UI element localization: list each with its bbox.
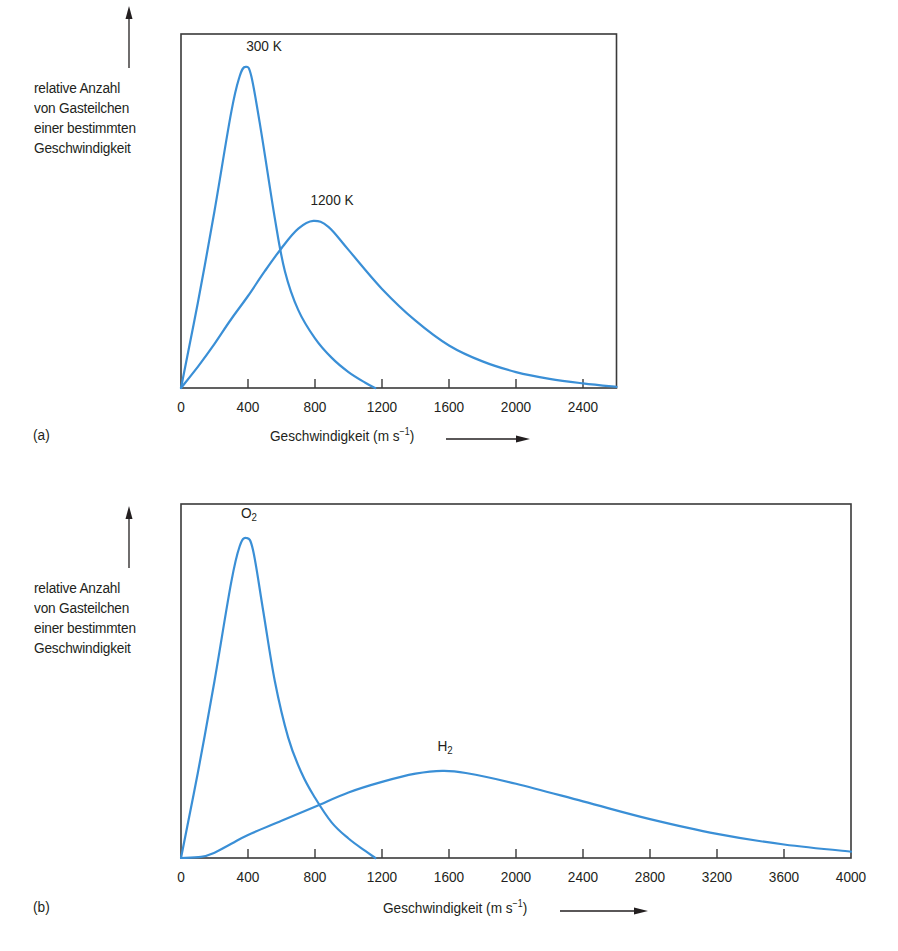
y-axis-arrow-icon xyxy=(126,506,133,519)
x-tick-label: 2000 xyxy=(501,868,531,886)
series-curve-h2 xyxy=(181,771,851,858)
x-tick-label: 1600 xyxy=(434,868,464,886)
y-label-line: von Gasteilchen xyxy=(34,598,136,618)
x-tick-label: 4000 xyxy=(836,868,866,886)
series-label: O2 xyxy=(241,504,257,523)
series-curve-o2 xyxy=(181,538,375,858)
x-tick-label: 800 xyxy=(304,868,327,886)
x-tick-label: 400 xyxy=(237,868,260,886)
series-label: H2 xyxy=(438,737,453,756)
x-tick-label: 3200 xyxy=(702,868,732,886)
x-tick-label: 0 xyxy=(177,868,185,886)
x-axis-arrow-icon xyxy=(634,908,648,915)
x-tick-label: 3600 xyxy=(769,868,799,886)
plot-frame xyxy=(181,504,851,858)
y-label-line: Geschwindigkeit xyxy=(34,638,136,658)
x-tick-label: 1200 xyxy=(367,868,397,886)
x-tick-label: 2400 xyxy=(568,868,598,886)
panel-label-b: (b) xyxy=(33,898,50,916)
x-tick-label: 2800 xyxy=(635,868,665,886)
y-axis-label-b: relative Anzahl von Gasteilchen einer be… xyxy=(34,578,136,658)
y-label-line: relative Anzahl xyxy=(34,578,136,598)
x-axis-label-b: Geschwindigkeit (m s−1) xyxy=(383,898,527,917)
chart-b-plot xyxy=(0,0,898,951)
y-label-line: einer bestimmten xyxy=(34,618,136,638)
